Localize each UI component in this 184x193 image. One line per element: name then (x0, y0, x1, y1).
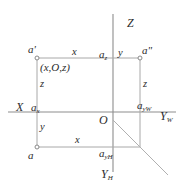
figure-canvas (0, 0, 184, 193)
point-label-az-sub: z (105, 54, 108, 62)
axis-label-x: X (16, 101, 23, 113)
axis-label-z: Z (127, 17, 134, 29)
point-label-a-top: a (28, 150, 34, 161)
edge-label-right-z: z (143, 79, 147, 90)
point-label-ax: ax (31, 102, 40, 113)
vertex-a-front (35, 56, 39, 60)
edge-label-left-y: y (40, 122, 45, 133)
edge-label-left-z: z (40, 79, 44, 90)
axis-label-yw: YW (160, 110, 173, 122)
point-label-ayw-text: a (137, 99, 143, 111)
point-label-ax-sub: x (37, 107, 40, 115)
origin-label: O (99, 114, 108, 126)
axis-label-yh-sub: H (108, 174, 113, 182)
axis-label-yh-text: Y (101, 167, 108, 181)
point-label-ayh-text: a (99, 147, 105, 159)
axis-label-yw-sub: W (167, 116, 173, 124)
vertex-a-top (35, 145, 39, 149)
edge-label-top-x: x (72, 47, 77, 58)
edge-label-bottom-x: x (75, 135, 80, 146)
point-label-ayh-sub: yH (105, 153, 113, 161)
vertex-a-side (138, 56, 142, 60)
point-label-ax-text: a (31, 101, 37, 113)
point-label-az-text: a (99, 48, 105, 60)
point-label-ayw: ayW (137, 100, 151, 111)
point-label-az: az (99, 49, 107, 60)
point-label-a-front-prime: ' (34, 43, 36, 55)
point-label-ayh: ayH (99, 148, 113, 159)
point-label-a-side-prime: " (148, 44, 153, 56)
point-label-ayw-sub: yW (143, 105, 152, 113)
point-label-a-side: a" (142, 45, 152, 56)
axis-label-yw-text: Y (160, 109, 167, 123)
edge-label-top-y: y (118, 48, 123, 59)
point-label-a-front: a' (28, 44, 36, 55)
coordinate-label: (x,O,z) (40, 62, 70, 73)
axis-label-yh: YH (101, 168, 113, 180)
geometry-figure: Z X YW YH O a' a" a ax az y ayW ayH (x,O… (0, 0, 184, 193)
